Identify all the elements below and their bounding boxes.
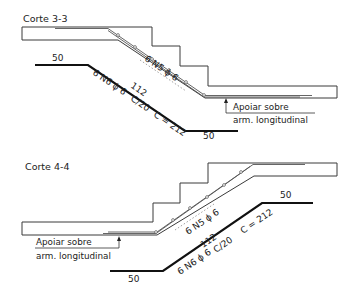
stair-concrete-outline — [22, 27, 337, 98]
rebar-n6-total-label: C = 212 — [239, 207, 275, 236]
rebar-n6-spacing-label: C/20 — [129, 93, 152, 113]
rebar-n6-left-hook-label: 50 — [52, 53, 64, 63]
rebar-n6-label: 6 N6 ϕ 6 — [176, 247, 214, 277]
rebar-n5-label: 6 N5 ϕ 6 — [143, 53, 181, 83]
rebar-n6-total-label: C = 212 — [152, 109, 188, 138]
support-note-line1: Apoiar sobre — [233, 102, 289, 112]
section-title: Corte 3-3 — [23, 13, 67, 24]
rebar-n5-label: 6 N5 ϕ 6 — [184, 207, 222, 237]
rebar-n6-left-hook-label: 50 — [128, 274, 140, 284]
rebar-n6-right-hook-label: 50 — [203, 131, 215, 141]
support-note-line1: Apoiar sobre — [36, 237, 92, 247]
rebar-n6-right-hook-label: 50 — [280, 190, 292, 200]
support-note-line2: arm. longitudinal — [233, 115, 308, 125]
section-title: Corte 4-4 — [25, 161, 69, 172]
section-corte-4-4: Corte 4-4 6 N5 ϕ 6 50 50 6 N6 ϕ 6 112 C/… — [22, 161, 337, 284]
support-note-line2: arm. longitudinal — [36, 251, 111, 261]
rebar-detail-drawing: Corte 3-3 6 N5 ϕ 6 50 50 6 N6 ϕ 6 112 C/… — [0, 0, 355, 295]
support-note: Apoiar sobre arm. longitudinal — [224, 98, 315, 125]
support-note: Apoiar sobre arm. longitudinal — [35, 236, 121, 261]
section-corte-3-3: Corte 3-3 6 N5 ϕ 6 50 50 6 N6 ϕ 6 112 C/… — [22, 13, 337, 141]
rebar-n6-label: 6 N6 ϕ 6 — [91, 67, 129, 97]
rebar-n5 — [55, 29, 312, 96]
